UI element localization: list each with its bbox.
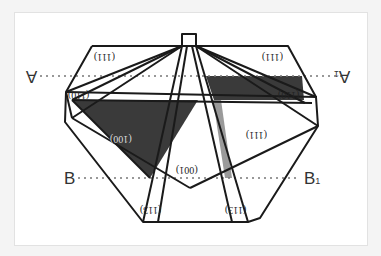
marker-a-start: A <box>26 68 37 85</box>
face-label-113-left: (113) <box>140 205 161 215</box>
face-label-001: (001) <box>176 165 198 175</box>
marker-b-end: B1 <box>304 170 320 187</box>
crystal-diagram <box>0 0 381 256</box>
marker-b-end-letter: B <box>304 169 315 188</box>
face-label-100: (100) <box>110 134 132 144</box>
marker-a-end-subscript: 1 <box>334 69 339 79</box>
marker-b-end-subscript: 1 <box>315 176 320 186</box>
face-label-110-right: (110) <box>278 90 299 100</box>
face-label-111-top-left: (111) <box>94 52 115 62</box>
marker-a-end: A1 <box>334 68 350 85</box>
face-label-113-right: (113) <box>225 205 246 215</box>
face-label-111-top-right: (111) <box>262 52 283 62</box>
marker-b-start: B <box>64 170 75 187</box>
marker-a-end-letter: A <box>339 67 350 86</box>
face-label-111-lower-right: (111) <box>246 130 267 140</box>
face-label-110-left: (110) <box>68 90 89 100</box>
